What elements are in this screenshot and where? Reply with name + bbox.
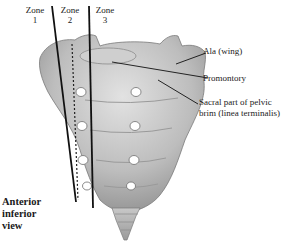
zone-label-2: Zone 2 bbox=[55, 5, 85, 25]
foramen bbox=[129, 156, 139, 165]
zone-label-3: Zone 3 bbox=[90, 5, 120, 25]
callout-promontory: Promontory bbox=[203, 73, 246, 84]
coccyx bbox=[112, 208, 140, 240]
foramen bbox=[83, 182, 92, 190]
foramen bbox=[127, 182, 136, 190]
sacrum-diagram: Zone 1 Zone 2 Zone 3 Ala (wing) Promonto… bbox=[0, 0, 281, 249]
foramen bbox=[131, 88, 141, 97]
promontory-surface bbox=[80, 48, 136, 64]
callout-ala: Ala (wing) bbox=[203, 46, 242, 57]
foramen bbox=[130, 122, 140, 131]
foramen bbox=[77, 122, 87, 131]
sacrum-illustration bbox=[0, 0, 281, 249]
zone-label-1: Zone 1 bbox=[20, 5, 50, 25]
foramen bbox=[76, 88, 86, 97]
foramen bbox=[78, 156, 88, 165]
callout-linea-terminalis: Sacral part of pelvic brim (linea termin… bbox=[199, 97, 280, 119]
view-label: Anterior inferior view bbox=[2, 196, 41, 232]
